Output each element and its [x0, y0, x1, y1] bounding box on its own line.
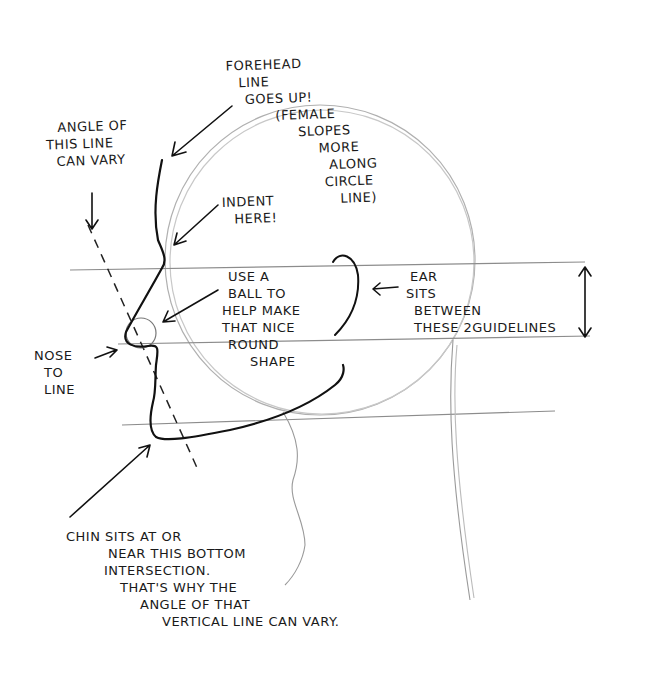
- ball-note-line: BALL TO: [222, 285, 301, 302]
- angle-down-arrow-icon: [86, 193, 98, 229]
- chin-note-line: ANGLE OF THAT: [66, 596, 339, 613]
- height-double-arrow-icon: [579, 267, 591, 337]
- ball-note-line: HELP MAKE: [222, 302, 301, 319]
- chin-arrow-icon: [70, 445, 150, 517]
- ear-note-line: THESE 2GUIDELINES: [406, 319, 556, 336]
- ear-arrow-icon: [373, 283, 398, 295]
- indent-note: INDENT HERE!: [221, 192, 277, 228]
- indent-arrow-icon: [174, 205, 218, 245]
- ball-arrow-icon: [163, 290, 218, 322]
- chin-note-line: NEAR THIS BOTTOM: [66, 545, 339, 562]
- ball-note: USE A BALL TO HELP MAKE THAT NICE ROUND …: [222, 268, 301, 370]
- forehead-arrow-icon: [172, 106, 232, 156]
- ear-shape: [333, 256, 358, 335]
- ball-note-line: USE A: [222, 268, 301, 285]
- ear-note-line: EAR: [406, 268, 556, 285]
- chin-note-line: INTERSECTION.: [66, 562, 339, 579]
- nose-arrow-icon: [95, 347, 117, 358]
- chin-note: CHIN SITS AT OR NEAR THIS BOTTOM INTERSE…: [66, 528, 339, 630]
- chin-note-line: VERTICAL LINE CAN VARY.: [66, 613, 339, 630]
- ball-note-line: ROUND: [222, 336, 301, 353]
- ear-note-line: SITS: [406, 285, 556, 302]
- angle-note-line: ANGLE OF: [45, 117, 128, 137]
- chin-note-line: THAT'S WHY THE: [66, 579, 339, 596]
- chin-note-line: CHIN SITS AT OR: [66, 528, 339, 545]
- ear-note: EAR SITS BETWEEN THESE 2GUIDELINES: [406, 268, 556, 336]
- angle-note-line: CAN VARY: [46, 151, 129, 171]
- ear-note-line: BETWEEN: [406, 302, 556, 319]
- ball-note-line: THAT NICE: [222, 319, 301, 336]
- indent-note-line: HERE!: [222, 209, 278, 228]
- indent-note-line: INDENT: [221, 192, 277, 211]
- nose-note-line: TO: [34, 364, 75, 381]
- angle-note: ANGLE OF THIS LINE CAN VARY: [45, 117, 129, 171]
- nose-note: NOSE TO LINE: [34, 347, 75, 398]
- nose-note-line: LINE: [34, 381, 75, 398]
- nose-guideline: [118, 336, 590, 344]
- forehead-note: FOREHEAD LINE GOES UP! (FEMALE SLOPES MO…: [225, 52, 378, 210]
- nose-note-line: NOSE: [34, 347, 75, 364]
- ball-note-line: SHAPE: [222, 353, 301, 370]
